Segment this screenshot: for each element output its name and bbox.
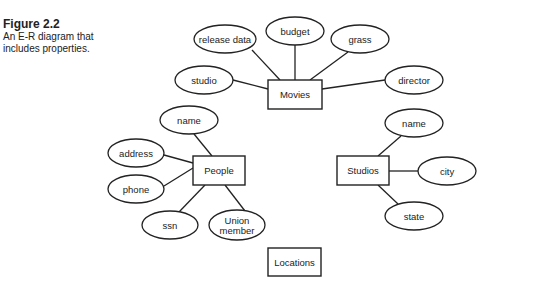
attribute-label: city — [440, 166, 455, 177]
attribute-studios-city: city — [418, 157, 476, 185]
entity-label: Movies — [280, 89, 310, 100]
entity-boxes: MoviesPeopleStudiosLocations — [193, 80, 389, 276]
attribute-label: grass — [348, 34, 371, 45]
attribute-people-ssn: ssn — [142, 211, 198, 239]
entity-locations: Locations — [268, 248, 321, 276]
attribute-label: state — [404, 211, 425, 222]
connector-people-phone — [164, 168, 193, 186]
attribute-studios-name: name — [385, 109, 443, 137]
connector-movies-studio — [233, 80, 268, 89]
attribute-label: name — [402, 118, 426, 129]
connector-people-name — [194, 134, 212, 156]
attribute-label: studio — [191, 75, 216, 86]
attribute-label: member — [220, 225, 255, 236]
attribute-movies-grass: grass — [331, 25, 389, 53]
entity-people: People — [193, 156, 245, 185]
attribute-people-union-member: Unionmember — [209, 210, 265, 240]
entity-label: Studios — [347, 165, 379, 176]
attribute-movies-director: director — [385, 66, 443, 94]
attribute-label: address — [119, 148, 153, 159]
attribute-people-phone: phone — [108, 175, 164, 203]
connector-people-union-member — [225, 185, 245, 211]
entity-label: Locations — [274, 257, 315, 268]
attribute-studios-state: state — [385, 202, 443, 230]
entity-movies: Movies — [268, 80, 322, 109]
attribute-label: budget — [280, 26, 309, 37]
attribute-movies-studio: studio — [175, 66, 233, 94]
er-diagram: release databudgetgrassstudiodirectornam… — [0, 0, 535, 296]
entity-studios: Studios — [337, 156, 389, 185]
attribute-ellipses: release databudgetgrassstudiodirectornam… — [108, 17, 476, 240]
attribute-label: ssn — [163, 220, 178, 231]
attribute-movies-release-data: release data — [194, 25, 256, 53]
connector-movies-grass — [310, 52, 348, 80]
connector-people-ssn — [179, 185, 205, 212]
connector-studios-name — [378, 136, 401, 156]
attribute-label: release data — [199, 34, 252, 45]
attribute-people-address: address — [108, 139, 164, 167]
attribute-movies-budget: budget — [266, 17, 324, 45]
attribute-label: director — [398, 75, 430, 86]
entity-label: People — [204, 165, 234, 176]
attribute-label: phone — [123, 184, 149, 195]
connector-studios-state — [378, 185, 398, 204]
attribute-people-name: name — [160, 106, 218, 134]
connector-movies-release-data — [252, 50, 280, 80]
connector-people-address — [164, 155, 193, 163]
connector-movies-director — [322, 80, 385, 89]
attribute-label: name — [177, 115, 201, 126]
